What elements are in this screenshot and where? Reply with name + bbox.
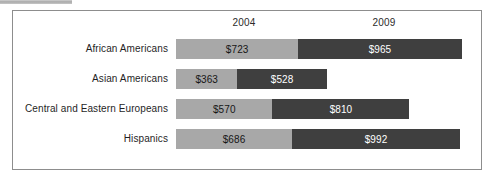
bar-value-label: $965 bbox=[369, 44, 392, 55]
bar-segment-2004: $723 bbox=[176, 39, 298, 59]
stacked-bar: $686 $992 bbox=[176, 129, 460, 149]
bar-value-label: $363 bbox=[195, 74, 218, 85]
bar-value-label: $723 bbox=[226, 44, 249, 55]
bar-value-label: $810 bbox=[330, 104, 353, 115]
bar-segment-2009: $528 bbox=[237, 69, 326, 89]
bar-segment-2004: $570 bbox=[176, 99, 272, 119]
bar-segment-2009: $992 bbox=[292, 129, 460, 149]
category-label: Central and Eastern Europeans bbox=[13, 99, 168, 119]
bar-segment-2009: $810 bbox=[272, 99, 409, 119]
bar-segment-2009: $965 bbox=[298, 39, 461, 59]
bar-row: Central and Eastern Europeans $570 $810 bbox=[13, 99, 483, 119]
category-label: African Americans bbox=[13, 39, 168, 59]
stacked-bar: $723 $965 bbox=[176, 39, 462, 59]
bar-value-label: $528 bbox=[271, 74, 294, 85]
category-label: Hispanics bbox=[13, 129, 168, 149]
stacked-bar: $570 $810 bbox=[176, 99, 409, 119]
bar-segment-2004: $686 bbox=[176, 129, 292, 149]
bar-row: African Americans $723 $965 bbox=[13, 39, 483, 59]
bar-value-label: $686 bbox=[223, 134, 246, 145]
plot-area: African Americans $723 $965 Asian Americ… bbox=[13, 35, 483, 171]
bar-row: Hispanics $686 $992 bbox=[13, 129, 483, 149]
category-label: Asian Americans bbox=[13, 69, 168, 89]
stacked-bar: $363 $528 bbox=[176, 69, 327, 89]
column-header-2009: 2009 bbox=[361, 17, 407, 28]
bar-row: Asian Americans $363 $528 bbox=[13, 69, 483, 89]
chart-column-headers: 2004 2009 bbox=[13, 11, 483, 35]
scan-artifact-strip bbox=[0, 0, 72, 4]
chart-frame: 2004 2009 African Americans $723 $965 As… bbox=[12, 10, 482, 170]
column-header-2004: 2004 bbox=[221, 17, 267, 28]
bar-value-label: $992 bbox=[365, 134, 388, 145]
bar-value-label: $570 bbox=[213, 104, 236, 115]
bar-segment-2004: $363 bbox=[176, 69, 237, 89]
